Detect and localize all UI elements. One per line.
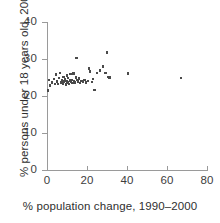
data-point [56,80,58,82]
data-point [62,82,64,84]
x-tick-label: 80 [194,174,220,186]
data-point [93,89,95,91]
data-point [91,81,93,83]
data-point [102,65,104,67]
x-tick-mark [207,166,208,171]
data-point [48,79,50,81]
scatter-plot-figure: 010203040 020406080 % persons under 18 y… [0,0,220,223]
data-point [99,69,101,71]
data-point [180,77,182,79]
y-axis-line [47,22,48,171]
data-point [76,79,78,81]
data-point [75,76,77,78]
y-tick-mark [42,133,47,134]
data-point [127,72,129,74]
x-tick-label: 0 [34,174,60,186]
data-point [66,74,68,76]
data-point [66,81,68,83]
data-point [58,77,60,79]
x-tick-mark [127,166,128,171]
y-tick-mark [42,96,47,97]
data-point [106,51,108,53]
data-point [68,83,70,85]
data-point [54,83,56,85]
data-point [64,78,66,80]
x-tick-mark [167,166,168,171]
data-point [69,73,71,75]
data-point [69,79,71,81]
data-point [88,67,90,69]
data-point [67,77,69,79]
data-point [83,79,85,81]
data-point [85,81,87,83]
data-point [49,84,51,86]
data-point [55,73,57,75]
data-point [71,82,73,84]
data-point [60,81,62,83]
data-point [71,79,73,81]
plot-area [0,0,220,223]
x-tick-mark [47,166,48,171]
data-point [108,76,110,78]
x-tick-mark [87,166,88,171]
data-point [80,80,82,82]
data-point [104,72,106,74]
data-point [74,81,76,83]
data-point [89,70,91,72]
data-point [70,81,72,83]
data-point [65,80,67,82]
data-point [92,78,94,80]
data-point [61,79,63,81]
x-tick-label: 60 [154,174,180,186]
x-tick-label: 20 [74,174,100,186]
data-point [75,57,77,59]
y-tick-mark [42,59,47,60]
x-axis-title: % population change, 1990–2000 [0,200,220,212]
data-point [79,82,81,84]
x-tick-label: 40 [114,174,140,186]
y-axis-title: % persons under 18 years old, 2000 [18,7,30,177]
data-point [107,76,109,78]
data-point [63,80,65,82]
data-point [62,76,64,78]
data-point [72,72,74,74]
data-point [87,80,89,82]
data-point [77,80,79,82]
data-point [82,81,84,83]
data-point [73,80,75,82]
data-point [96,72,98,74]
data-point [53,78,55,80]
data-point [51,81,53,83]
data-point [59,72,61,74]
data-point [65,83,67,85]
y-tick-mark [42,22,47,23]
data-point [78,77,80,79]
data-point [57,83,59,85]
